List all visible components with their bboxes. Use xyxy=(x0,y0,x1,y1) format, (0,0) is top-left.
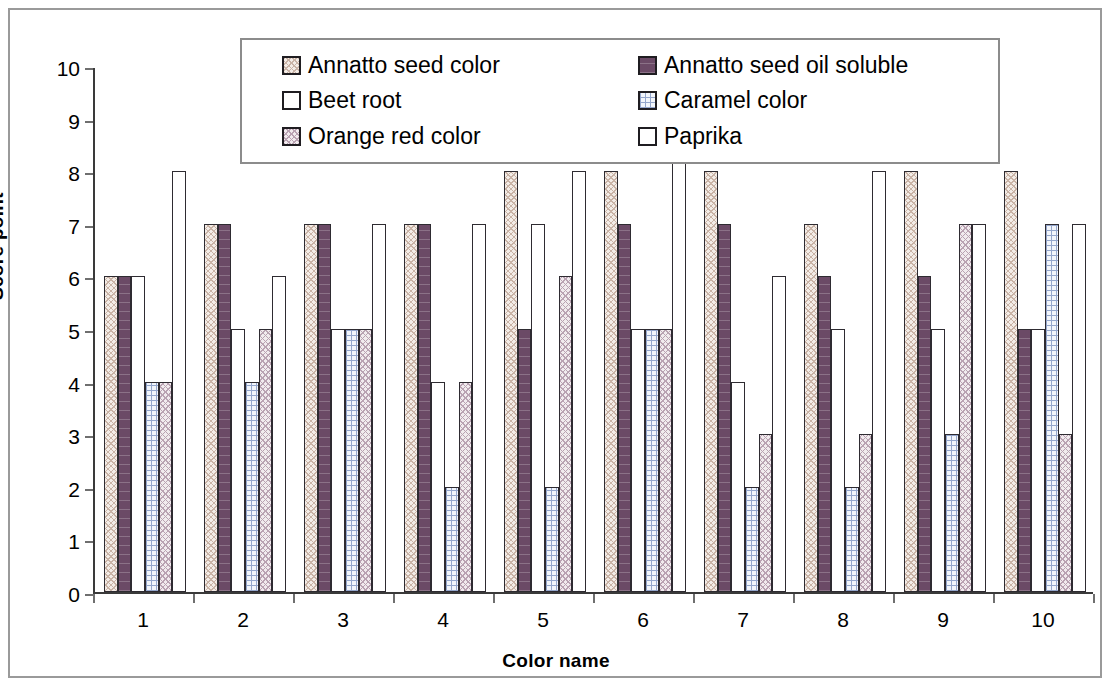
bar xyxy=(859,434,873,592)
bar xyxy=(972,224,986,592)
legend-swatch-icon xyxy=(282,56,301,75)
legend-label: Orange red color xyxy=(308,125,481,148)
bar xyxy=(1004,171,1018,592)
legend-entry: Annatto seed color xyxy=(282,54,628,77)
bar xyxy=(604,171,618,592)
bar xyxy=(159,382,173,592)
bar xyxy=(231,329,245,592)
x-tick-label: 1 xyxy=(137,608,149,632)
legend-label: Caramel color xyxy=(664,89,807,112)
bar xyxy=(759,434,773,592)
bar xyxy=(845,487,859,592)
legend-swatch-icon xyxy=(282,127,301,146)
y-tick-label: 8 xyxy=(38,163,80,184)
x-tick-label: 8 xyxy=(837,608,849,632)
legend-label: Beet root xyxy=(308,89,401,112)
bar-chart-figure: Score point 012345678910 12345678910 Col… xyxy=(0,0,1112,687)
x-group-separator xyxy=(293,594,295,603)
bar xyxy=(418,224,432,592)
bar xyxy=(404,224,418,592)
bar xyxy=(531,224,545,592)
x-axis-title: Color name xyxy=(0,650,1112,672)
bar xyxy=(445,487,459,592)
bar xyxy=(818,276,832,592)
y-tick-label: 6 xyxy=(38,268,80,289)
bar xyxy=(1018,329,1032,592)
bar xyxy=(772,276,786,592)
bar xyxy=(518,329,532,592)
bar xyxy=(672,119,686,592)
bar xyxy=(459,382,473,592)
y-tick-label: 3 xyxy=(38,426,80,447)
bar xyxy=(904,171,918,592)
x-group-separator xyxy=(693,594,695,603)
bar xyxy=(118,276,132,592)
bar xyxy=(1031,329,1045,592)
x-group-separator xyxy=(193,594,195,603)
bar xyxy=(645,329,659,592)
bar xyxy=(1072,224,1086,592)
y-tick-label: 4 xyxy=(38,373,80,394)
bar xyxy=(745,487,759,592)
legend-entry: Caramel color xyxy=(638,89,984,112)
x-tick-label: 6 xyxy=(637,608,649,632)
legend-label: Annatto seed oil soluble xyxy=(664,54,908,77)
y-tick-label: 5 xyxy=(38,321,80,342)
bar xyxy=(872,171,886,592)
bar xyxy=(245,382,259,592)
bar xyxy=(804,224,818,592)
bar xyxy=(959,224,973,592)
bar xyxy=(472,224,486,592)
bar xyxy=(372,224,386,592)
legend-swatch-icon xyxy=(638,91,657,110)
x-tick-label: 3 xyxy=(337,608,349,632)
y-tick-label: 2 xyxy=(38,478,80,499)
legend-swatch-icon xyxy=(638,127,657,146)
legend-swatch-icon xyxy=(638,56,657,75)
y-tick-label: 7 xyxy=(38,215,80,236)
bar xyxy=(359,329,373,592)
bar xyxy=(431,382,445,592)
bar xyxy=(345,329,359,592)
x-group-separator xyxy=(593,594,595,603)
x-tick-label: 7 xyxy=(737,608,749,632)
x-tick-label: 4 xyxy=(437,608,449,632)
bar xyxy=(659,329,673,592)
bar xyxy=(918,276,932,592)
legend-entry: Annatto seed oil soluble xyxy=(638,54,984,77)
x-group-separator xyxy=(993,594,995,603)
x-group-separator xyxy=(1093,594,1095,603)
x-tick-label: 10 xyxy=(1031,608,1054,632)
x-tick-label: 5 xyxy=(537,608,549,632)
bar xyxy=(504,171,518,592)
bar xyxy=(218,224,232,592)
x-tick-label: 2 xyxy=(237,608,249,632)
bar xyxy=(272,276,286,592)
y-tick-label: 9 xyxy=(38,110,80,131)
bar xyxy=(931,329,945,592)
bar xyxy=(318,224,332,592)
legend-entry: Orange red color xyxy=(282,125,628,148)
bar xyxy=(831,329,845,592)
bar xyxy=(331,329,345,592)
bar xyxy=(545,487,559,592)
y-tick-label: 10 xyxy=(38,58,80,79)
x-group-separator xyxy=(493,594,495,603)
bar xyxy=(559,276,573,592)
x-group-separator xyxy=(393,594,395,603)
bar xyxy=(945,434,959,592)
bar xyxy=(259,329,273,592)
bar xyxy=(731,382,745,592)
y-tick-label: 0 xyxy=(38,584,80,605)
y-axis-title: Score point xyxy=(0,192,8,300)
legend-label: Annatto seed color xyxy=(308,54,500,77)
y-tick-label: 1 xyxy=(38,531,80,552)
bar xyxy=(204,224,218,592)
bar xyxy=(104,276,118,592)
bar xyxy=(1045,224,1059,592)
chart-legend: Annatto seed colorAnnatto seed oil solub… xyxy=(240,38,1000,164)
bar xyxy=(704,171,718,592)
x-group-separator xyxy=(793,594,795,603)
legend-entry: Paprika xyxy=(638,125,984,148)
legend-swatch-icon xyxy=(282,91,301,110)
